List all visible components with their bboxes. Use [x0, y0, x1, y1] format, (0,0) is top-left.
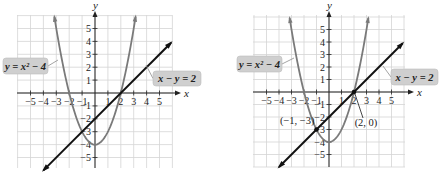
y-tick-label: 1 — [86, 75, 91, 86]
y-tick-label: 1 — [320, 74, 325, 85]
point-leader-line — [355, 94, 363, 118]
parabola-equation-label: y = x² − 4 — [237, 56, 294, 72]
y-tick-label: 4 — [320, 37, 325, 48]
y-tick-label: −1 — [314, 99, 325, 110]
x-axis-label: x — [416, 86, 422, 98]
leader-line — [383, 66, 391, 77]
y-tick-label: 2 — [320, 62, 325, 73]
x-tick-label: 4 — [377, 95, 382, 106]
x-axis-label: x — [183, 87, 189, 99]
y-tick-label: −2 — [80, 113, 91, 124]
leader-line — [282, 58, 294, 64]
figure-canvas: xy−5−4−3−2−11234554321−1−2−3−4−5y = x² −… — [0, 0, 439, 179]
chart-panel-1: xy−5−4−3−2−11234554321−1−2−3−4−5y = x² −… — [3, 0, 201, 172]
y-tick-label: −1 — [80, 100, 91, 111]
equation-text: y = x² − 4 — [237, 59, 280, 70]
x-tick-label: −5 — [25, 96, 36, 107]
y-tick-label: 5 — [320, 24, 325, 35]
y-tick-label: −5 — [80, 152, 91, 163]
equation-text: x − y = 2 — [394, 72, 434, 83]
y-axis-label: y — [326, 0, 332, 11]
x-tick-label: 3 — [364, 95, 369, 106]
y-tick-label: −4 — [80, 139, 91, 150]
x-tick-label: −3 — [286, 95, 297, 106]
x-axis-arrow-icon — [175, 91, 181, 96]
x-axis-arrow-icon — [408, 90, 414, 95]
y-tick-label: 5 — [86, 23, 91, 34]
x-tick-label: −5 — [261, 95, 272, 106]
intersection-point — [352, 90, 357, 95]
line-equation-label: x − y = 2 — [146, 65, 201, 86]
y-axis-arrow-icon — [327, 11, 332, 17]
x-tick-label: −4 — [274, 95, 285, 106]
chart-panel-2: xy−5−4−3−2−11234554321−1−2−3−4−5y = x² −… — [237, 0, 438, 168]
y-tick-label: 4 — [86, 36, 91, 47]
equation-text: x − y = 2 — [157, 73, 197, 84]
x-tick-label: 4 — [144, 96, 149, 107]
equation-text: y = x² − 4 — [3, 61, 46, 72]
y-tick-label: 3 — [320, 49, 325, 60]
x-tick-label: 5 — [157, 96, 162, 107]
parabola-equation-label: y = x² − 4 — [3, 58, 58, 74]
y-axis-label: y — [92, 0, 98, 11]
intersection-point — [314, 127, 319, 132]
y-tick-label: −2 — [314, 112, 325, 123]
x-tick-label: −3 — [51, 96, 62, 107]
y-tick-label: 3 — [86, 49, 91, 60]
x-tick-label: −4 — [38, 96, 49, 107]
x-tick-label: 3 — [131, 96, 136, 107]
y-tick-label: −4 — [314, 137, 325, 148]
intersection-point-label: (−1, −3) — [280, 115, 315, 127]
intersection-point-label: (2, 0) — [355, 117, 378, 129]
y-tick-label: 2 — [86, 62, 91, 73]
y-axis-arrow-icon — [93, 11, 98, 17]
y-tick-label: −5 — [314, 149, 325, 160]
x-tick-label: 5 — [389, 95, 394, 106]
